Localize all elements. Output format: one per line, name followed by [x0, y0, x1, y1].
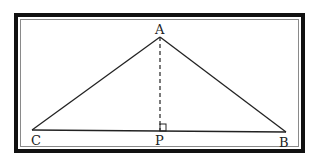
label-p: P: [155, 133, 164, 148]
side-ac: [32, 37, 160, 130]
right-angle-marker: [160, 124, 166, 131]
triangle-diagram: A C P B: [0, 0, 316, 160]
label-c: C: [31, 133, 41, 148]
base-cb: [32, 130, 286, 132]
label-a: A: [154, 22, 165, 37]
label-b: B: [279, 135, 289, 150]
side-ab: [160, 37, 286, 132]
